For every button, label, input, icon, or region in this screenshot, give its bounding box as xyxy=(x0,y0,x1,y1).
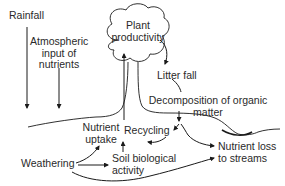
soil-biological-line-1: Soil biological xyxy=(112,153,176,165)
nutrient-loss-line-1: Nutrient loss xyxy=(218,141,276,153)
nutrient-loss-label: Nutrient loss to streams xyxy=(218,141,276,164)
weathering-label: Weathering xyxy=(21,158,75,170)
nutrient-loss-line-2: to streams xyxy=(218,153,276,165)
atmospheric-input-label: Atmospheric input of nutrients xyxy=(30,36,88,71)
decomposition-line-2: matter xyxy=(144,107,272,119)
nutrient-uptake-label: Nutrient uptake xyxy=(78,122,124,145)
nutrient-uptake-line-2: uptake xyxy=(78,134,124,146)
recycling-label: Recycling xyxy=(124,125,170,137)
rainfall-label: Rainfall xyxy=(9,10,44,22)
soil-biological-activity-label: Soil biological activity xyxy=(112,153,176,176)
tree-trunk-left xyxy=(96,62,128,117)
decomposition-to-loss-arrow xyxy=(181,124,214,146)
decomposition-to-recycling-arrow xyxy=(174,124,179,130)
litter-fall-label: Litter fall xyxy=(157,70,197,82)
nutrient-cycle-diagram: Rainfall Atmospheric input of nutrients … xyxy=(0,0,285,186)
plant-productivity-line-1: Plant xyxy=(106,20,170,32)
recycling-to-soil-arrow xyxy=(148,137,166,142)
stream-shape xyxy=(222,130,252,135)
decomposition-label: Decomposition of organic matter xyxy=(144,95,272,118)
decomposition-line-1: Decomposition of organic xyxy=(144,95,272,107)
litter-fall-arrow xyxy=(160,40,167,64)
atmospheric-input-line-3: nutrients xyxy=(30,59,88,71)
weathering-to-uptake-arrow xyxy=(76,146,99,163)
plant-productivity-line-2: productivity xyxy=(106,32,170,44)
soil-biological-line-2: activity xyxy=(112,165,176,177)
plant-productivity-label: Plant productivity xyxy=(106,20,170,43)
atmospheric-input-line-1: Atmospheric xyxy=(30,36,88,48)
nutrient-uptake-line-1: Nutrient xyxy=(78,122,124,134)
